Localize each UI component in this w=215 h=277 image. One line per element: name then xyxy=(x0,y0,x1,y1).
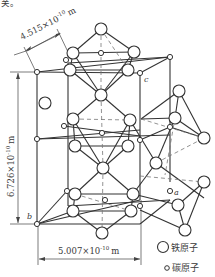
carbon-legend-icon xyxy=(165,266,170,271)
svg-text:5.007×10-10m: 5.007×10-10m xyxy=(58,245,119,256)
iron-legend-icon xyxy=(158,242,169,253)
axis-label-b: b xyxy=(27,212,32,221)
axis-label-a: a xyxy=(174,188,179,197)
top-text-fragment: 关。 xyxy=(1,0,19,8)
svg-text:4.515×10-10m: 4.515×10-10m xyxy=(18,4,78,42)
cementite-crystal-structure-figure: 关。 4.515×10-10m 6.726×10-10m 5.007×10-10… xyxy=(0,0,215,277)
dimension-height: 6.726×10-10m xyxy=(5,72,34,224)
legend-iron-label: 铁原子 xyxy=(171,242,198,253)
axis-label-c: c xyxy=(144,75,149,84)
legend-carbon-label: 碳原子 xyxy=(172,262,199,273)
legend: 铁原子 碳原子 xyxy=(158,242,200,274)
svg-text:6.726×10-10m: 6.726×10-10m xyxy=(5,136,16,197)
